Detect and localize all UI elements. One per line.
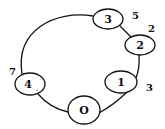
node-4-label: 4 [24,78,32,91]
node-O-label: O [79,104,89,117]
ring-diagram: O 1 2 3 4 5 2 3 7 [0,0,165,129]
node-3: 3 [93,9,123,29]
edge-O-1 [99,92,127,113]
node-1: 1 [105,71,137,93]
edge-2-3 [120,26,131,37]
edge-1-2 [136,55,139,78]
node-4: 4 [15,73,45,95]
node-2: 2 [125,35,155,55]
weight-label-5: 5 [132,10,139,21]
weight-label-7: 7 [9,66,16,77]
edge-4-O [38,94,68,112]
node-O: O [68,96,100,124]
edge-3-4 [21,15,93,74]
node-2-label: 2 [136,39,144,52]
node-1-label: 1 [117,76,125,89]
weight-label-3: 3 [146,82,153,93]
node-3-label: 3 [104,13,112,26]
dot-mark [36,89,37,90]
weight-label-2: 2 [148,23,155,34]
